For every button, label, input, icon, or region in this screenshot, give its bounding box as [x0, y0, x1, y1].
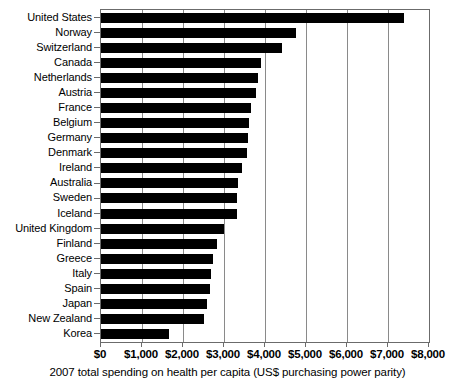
x-axis-label-5000: $5,000 — [288, 348, 322, 360]
bar-series — [101, 10, 429, 342]
x-tick-6000 — [346, 342, 347, 347]
bar-switzerland — [101, 43, 282, 53]
y-axis-label-netherlands: Netherlands — [0, 69, 94, 84]
y-axis-label-united-kingdom: United Kingdom — [0, 220, 94, 235]
bar-netherlands — [101, 73, 258, 83]
bar-row — [101, 10, 429, 25]
bar-row — [101, 236, 429, 251]
y-axis-label-finland: Finland — [0, 235, 94, 250]
bar-united-states — [101, 13, 404, 23]
bar-new-zealand — [101, 314, 204, 324]
y-axis-label-new-zealand: New Zealand — [0, 311, 94, 326]
bar-japan — [101, 299, 207, 309]
x-tick-2000 — [182, 342, 183, 347]
bar-australia — [101, 178, 238, 188]
y-axis-label-iceland: Iceland — [0, 205, 94, 220]
bar-italy — [101, 269, 211, 279]
x-tick-7000 — [387, 342, 388, 347]
x-axis-label-6000: $6,000 — [329, 348, 363, 360]
bar-korea — [101, 329, 169, 339]
y-axis-label-greece: Greece — [0, 250, 94, 265]
bar-denmark — [101, 148, 247, 158]
y-axis-label-germany: Germany — [0, 130, 94, 145]
y-axis-label-norway: Norway — [0, 24, 94, 39]
bar-row — [101, 221, 429, 236]
bar-greece — [101, 254, 213, 264]
bar-row — [101, 85, 429, 100]
bar-canada — [101, 58, 261, 68]
bar-row — [101, 131, 429, 146]
bar-row — [101, 70, 429, 85]
y-axis-label-italy: Italy — [0, 265, 94, 280]
y-axis-label-australia: Australia — [0, 175, 94, 190]
x-tick-3000 — [223, 342, 224, 347]
bar-row — [101, 146, 429, 161]
bar-row — [101, 312, 429, 327]
bar-row — [101, 191, 429, 206]
bar-france — [101, 103, 251, 113]
x-axis-label-7000: $7,000 — [370, 348, 404, 360]
x-tick-4000 — [264, 342, 265, 347]
chart-figure: United StatesNorwaySwitzerlandCanadaNeth… — [0, 0, 455, 387]
bar-row — [101, 100, 429, 115]
bar-row — [101, 25, 429, 40]
bar-row — [101, 296, 429, 311]
y-axis-label-sweden: Sweden — [0, 190, 94, 205]
bar-row — [101, 327, 429, 342]
y-axis-label-korea: Korea — [0, 326, 94, 341]
bar-row — [101, 251, 429, 266]
bar-sweden — [101, 193, 237, 203]
y-axis-label-spain: Spain — [0, 280, 94, 295]
x-axis-label-0: $0 — [94, 348, 106, 360]
y-axis-label-canada: Canada — [0, 54, 94, 69]
y-axis-label-japan: Japan — [0, 295, 94, 310]
x-axis-label-8000: $8,000 — [411, 348, 445, 360]
x-axis-title: 2007 total spending on health per capita… — [0, 366, 455, 378]
bar-row — [101, 206, 429, 221]
bar-row — [101, 161, 429, 176]
bar-germany — [101, 133, 248, 143]
bar-united-kingdom — [101, 224, 224, 234]
y-axis-label-denmark: Denmark — [0, 145, 94, 160]
y-axis-label-united-states: United States — [0, 9, 94, 24]
x-tick-5000 — [305, 342, 306, 347]
bar-row — [101, 281, 429, 296]
y-axis-label-switzerland: Switzerland — [0, 39, 94, 54]
x-tick-0 — [100, 342, 101, 347]
bar-row — [101, 176, 429, 191]
bar-finland — [101, 239, 217, 249]
x-axis-label-4000: $4,000 — [247, 348, 281, 360]
bar-norway — [101, 28, 296, 38]
plot-area — [100, 9, 430, 343]
bar-iceland — [101, 209, 237, 219]
bar-row — [101, 116, 429, 131]
y-axis-label-france: France — [0, 99, 94, 114]
bar-row — [101, 266, 429, 281]
x-axis-label-2000: $2,000 — [165, 348, 199, 360]
x-tick-8000 — [428, 342, 429, 347]
y-axis-label-belgium: Belgium — [0, 115, 94, 130]
y-axis-label-ireland: Ireland — [0, 160, 94, 175]
y-axis-label-austria: Austria — [0, 84, 94, 99]
x-axis-label-3000: $3,000 — [206, 348, 240, 360]
x-axis-ticks — [100, 342, 430, 347]
bar-ireland — [101, 163, 242, 173]
x-axis-label-1000: $1,000 — [124, 348, 158, 360]
x-axis-tick-labels: $0$1,000$2,000$3,000$4,000$5,000$6,000$7… — [0, 348, 455, 364]
bar-spain — [101, 284, 210, 294]
bar-belgium — [101, 118, 249, 128]
bar-row — [101, 55, 429, 70]
bar-row — [101, 40, 429, 55]
bar-austria — [101, 88, 256, 98]
x-tick-1000 — [141, 342, 142, 347]
y-axis-category-labels: United StatesNorwaySwitzerlandCanadaNeth… — [0, 9, 94, 341]
